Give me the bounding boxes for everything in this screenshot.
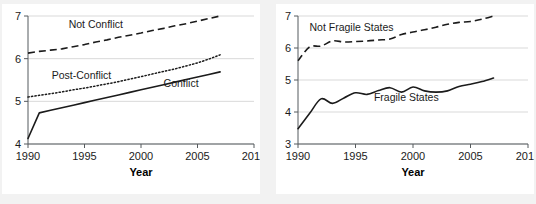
x-tick-label: 2005	[185, 150, 209, 162]
x-tick-label: 2000	[129, 150, 153, 162]
y-tick-label: 7	[15, 10, 21, 22]
x-tick-label: 1995	[343, 150, 367, 162]
x-axis-title: Year	[129, 166, 153, 178]
series-label-not-fragile-states: Not Fragile States	[310, 21, 394, 33]
x-tick-label: 1990	[286, 150, 310, 162]
x-tick-label: 2000	[401, 150, 425, 162]
series-label-post-conflict: Post-Conflict	[52, 69, 112, 81]
y-tick-label: 4	[15, 138, 21, 150]
x-axis-title: Year	[401, 166, 425, 178]
chart-panel-left: 456719901995200020052010YearNot Conflict…	[2, 4, 260, 194]
x-tick-label: 2005	[458, 150, 482, 162]
chart-svg-right: 3456719901995200020052010YearNot Fragile…	[276, 4, 534, 194]
x-tick-label: 2010	[516, 150, 534, 162]
series-line-not-conflict	[28, 16, 220, 53]
series-label-conflict: Conflict	[164, 77, 199, 89]
series-label-fragile-states: Fragile States	[374, 91, 439, 103]
y-tick-label: 6	[285, 42, 291, 54]
y-tick-label: 5	[15, 95, 21, 107]
chart-svg-left: 456719901995200020052010YearNot Conflict…	[2, 4, 260, 194]
y-tick-label: 3	[285, 138, 291, 150]
y-tick-label: 5	[285, 74, 291, 86]
series-label-not-conflict: Not Conflict	[69, 18, 123, 30]
gridlines-group	[298, 16, 528, 144]
x-tick-label: 2010	[242, 150, 260, 162]
chart-panel-right: 3456719901995200020052010YearNot Fragile…	[276, 4, 534, 194]
series-annotations-group: Not ConflictPost-ConflictConflict	[52, 18, 199, 89]
axes-group	[24, 16, 254, 148]
series-annotations-group: Not Fragile StatesFragile States	[310, 21, 439, 103]
two-panel-line-chart-figure: 456719901995200020052010YearNot Conflict…	[0, 0, 536, 204]
axes-group	[294, 16, 528, 148]
x-tick-label: 1995	[72, 150, 96, 162]
y-tick-label: 4	[285, 106, 291, 118]
y-tick-label: 6	[15, 53, 21, 65]
tick-labels-group: 456719901995200020052010	[15, 10, 260, 162]
x-tick-label: 1990	[16, 150, 40, 162]
y-tick-label: 7	[285, 10, 291, 22]
